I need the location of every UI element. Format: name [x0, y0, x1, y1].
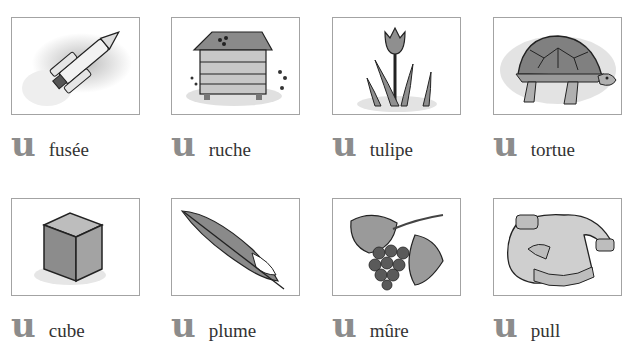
word-label: u plume — [171, 308, 256, 342]
letter-u: u — [171, 308, 195, 342]
word-label: u tulipe — [332, 127, 413, 161]
cube-icon — [12, 199, 139, 295]
feather-icon — [172, 199, 299, 295]
word-text: tulipe — [370, 140, 413, 159]
word-text: pull — [531, 321, 561, 340]
picture-frame — [332, 198, 461, 296]
letter-u: u — [11, 127, 35, 161]
beehive-icon — [172, 18, 299, 114]
picture-frame — [11, 198, 140, 296]
picture-frame — [171, 17, 300, 115]
word-text: mûre — [370, 321, 409, 340]
picture-frame — [171, 198, 300, 296]
picture-frame — [493, 198, 622, 296]
picture-frame — [332, 17, 461, 115]
blackberry-icon — [333, 199, 460, 295]
word-text: fusée — [49, 140, 89, 159]
word-label: u mûre — [332, 308, 409, 342]
turtle-icon — [494, 18, 621, 114]
word-label: u cube — [11, 308, 85, 342]
word-text: ruche — [209, 140, 251, 159]
tulip-icon — [333, 18, 460, 114]
letter-u: u — [332, 127, 356, 161]
letter-u: u — [332, 308, 356, 342]
rocket-icon — [12, 18, 139, 114]
sweater-icon — [494, 199, 621, 295]
letter-u: u — [493, 308, 517, 342]
word-text: plume — [209, 321, 257, 340]
word-text: cube — [49, 321, 85, 340]
letter-u: u — [11, 308, 35, 342]
letter-u: u — [493, 127, 517, 161]
word-text: tortue — [531, 140, 575, 159]
word-label: u fusée — [11, 127, 89, 161]
word-label: u tortue — [493, 127, 575, 161]
word-label: u ruche — [171, 127, 251, 161]
picture-frame — [11, 17, 140, 115]
letter-u: u — [171, 127, 195, 161]
word-label: u pull — [493, 308, 560, 342]
picture-frame — [493, 17, 622, 115]
